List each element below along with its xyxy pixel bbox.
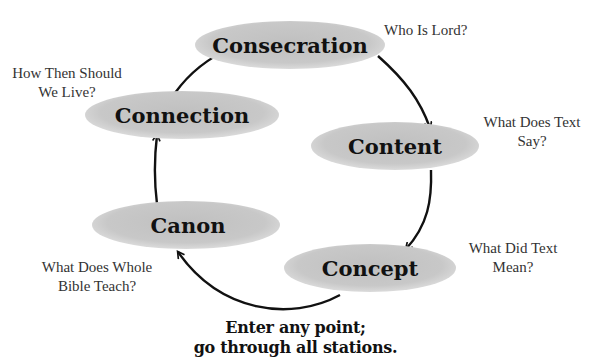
arrow-content-to-concept [406, 170, 431, 249]
footer-line-1: Enter any point; [0, 318, 591, 338]
node-concept-label: Concept [322, 256, 419, 281]
arrow-canon-to-connection [155, 135, 157, 204]
question-concept-line1: What Did Text [469, 240, 558, 256]
question-canon-line1: What Does Whole [42, 259, 153, 275]
cycle-diagram: Consecration Content Concept Canon Conne… [0, 0, 591, 362]
node-content-label: Content [348, 134, 442, 159]
node-consecration-label: Consecration [212, 33, 368, 58]
question-content-line2: Say? [517, 133, 547, 149]
footer-caption: Enter any point; go through all stations… [0, 318, 591, 358]
question-consecration: Who Is Lord? [384, 22, 468, 38]
node-connection-label: Connection [115, 103, 249, 128]
question-connection-line2: We Live? [38, 84, 96, 100]
node-canon-label: Canon [151, 213, 226, 238]
question-canon-line2: Bible Teach? [58, 278, 137, 294]
arrow-consecration-to-content [378, 56, 430, 128]
footer-line-2: go through all stations. [0, 338, 591, 358]
question-connection-line1: How Then Should [12, 65, 122, 81]
question-concept-line2: Mean? [493, 259, 534, 275]
question-content-line1: What Does Text [484, 114, 582, 130]
